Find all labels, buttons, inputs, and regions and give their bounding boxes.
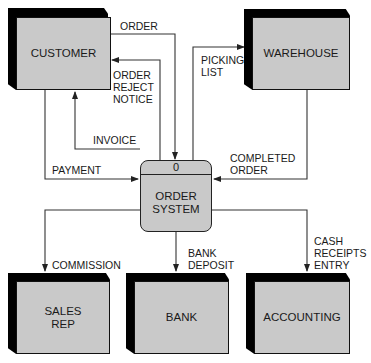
process-order-system: 0 ORDER SYSTEM: [140, 160, 212, 232]
flow-label-commission: COMMISSION: [52, 259, 121, 271]
entity-label: WAREHOUSE: [252, 17, 350, 90]
entity-label: BANK: [134, 281, 229, 354]
entity-warehouse: WAREHOUSE: [244, 9, 350, 90]
process-name: ORDER SYSTEM: [141, 174, 211, 231]
flow-label-order: ORDER: [120, 20, 158, 32]
flow-label-picking-list: PICKING LIST: [201, 54, 244, 78]
entity-sales-rep: SALES REP: [8, 273, 110, 354]
entity-label-text: SALES REP: [44, 305, 81, 331]
process-name-text: ORDER SYSTEM: [152, 190, 199, 216]
entity-bank: BANK: [126, 273, 229, 354]
entity-customer: CUSTOMER: [8, 8, 111, 90]
flow-label-bank-deposit: BANK DEPOSIT: [188, 247, 234, 271]
entity-accounting: ACCOUNTING: [246, 273, 350, 354]
entity-label: ACCOUNTING: [254, 281, 350, 354]
entity-label: CUSTOMER: [16, 17, 111, 90]
process-id: 0: [141, 161, 211, 175]
flow-label-payment: PAYMENT: [52, 164, 101, 176]
entity-label: SALES REP: [16, 281, 110, 354]
flow-label-order-reject-notice: ORDER REJECT NOTICE: [113, 69, 154, 105]
flow-label-invoice: INVOICE: [93, 134, 136, 146]
flow-label-cash-receipts-entry: CASH RECEIPTS ENTRY: [314, 235, 367, 271]
flow-label-completed-order: COMPLETED ORDER: [230, 152, 295, 176]
